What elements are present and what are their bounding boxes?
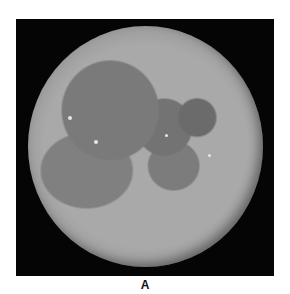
- crater-bright: [208, 154, 211, 157]
- moon-image: [28, 26, 263, 267]
- crater-bright: [94, 140, 98, 144]
- crater-bright: [68, 116, 72, 120]
- crater-bright: [165, 134, 168, 137]
- figure-label: A: [0, 278, 290, 292]
